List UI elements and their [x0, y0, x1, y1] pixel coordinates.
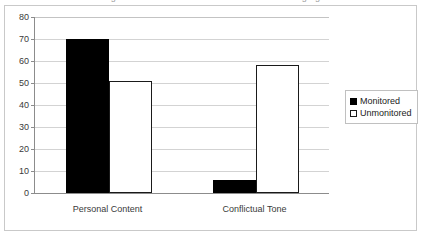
y-tick-label-20: 20 — [19, 145, 29, 154]
y-tick-mark-80 — [31, 17, 35, 18]
y-tick-label-40: 40 — [19, 101, 29, 110]
legend-label-monitored: Monitored — [360, 97, 400, 106]
legend-item-unmonitored[interactable]: Unmonitored — [350, 107, 412, 119]
gridline-80 — [35, 17, 329, 18]
legend-item-monitored[interactable]: Monitored — [350, 95, 412, 107]
y-tick-label-60: 60 — [19, 57, 29, 66]
y-tick-mark-40 — [31, 105, 35, 106]
gridline-0 — [35, 193, 329, 194]
legend-label-unmonitored: Unmonitored — [360, 109, 412, 118]
chart-frame: 01020304050607080 Personal ContentConfli… — [4, 5, 417, 231]
y-tick-mark-10 — [31, 171, 35, 172]
chart-legend: Monitored Unmonitored — [345, 90, 418, 124]
y-tick-label-0: 0 — [24, 189, 29, 198]
y-tick-label-50: 50 — [19, 79, 29, 88]
y-tick-label-10: 10 — [19, 167, 29, 176]
bar-monitored-conflictual-tone[interactable] — [213, 180, 256, 193]
plot-area: 01020304050607080 — [34, 17, 329, 193]
y-tick-mark-50 — [31, 83, 35, 84]
y-tick-mark-60 — [31, 61, 35, 62]
bar-unmonitored-conflictual-tone[interactable] — [256, 65, 299, 193]
legend-swatch-filled-square-icon — [350, 98, 357, 105]
y-tick-mark-70 — [31, 39, 35, 40]
x-category-label-personal-content: Personal Content — [73, 205, 143, 214]
x-category-label-conflictual-tone: Conflictual Tone — [223, 205, 287, 214]
chart-canvas: 01020304050607080 Personal ContentConfli… — [5, 6, 418, 232]
legend-swatch-hollow-square-icon — [350, 110, 357, 117]
y-tick-mark-20 — [31, 149, 35, 150]
bar-unmonitored-personal-content[interactable] — [109, 81, 152, 193]
y-tick-label-70: 70 — [19, 35, 29, 44]
y-tick-label-30: 30 — [19, 123, 29, 132]
bar-monitored-personal-content[interactable] — [66, 39, 109, 193]
y-tick-mark-30 — [31, 127, 35, 128]
y-tick-label-80: 80 — [19, 13, 29, 22]
y-tick-mark-0 — [31, 193, 35, 194]
